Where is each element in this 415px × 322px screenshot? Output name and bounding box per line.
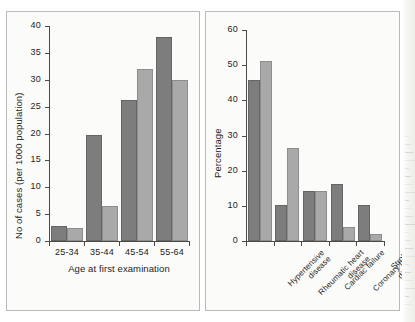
- page-edge-mark: [405, 256, 415, 257]
- page-edge-mark: [405, 272, 411, 273]
- page-edge-mark: [405, 240, 411, 241]
- y-axis-tick-label: 60: [214, 24, 238, 34]
- page-edge-mark: [405, 232, 409, 233]
- x-axis-title: Age at first examination: [49, 263, 189, 274]
- x-axis-tick: [189, 242, 190, 246]
- y-axis-tick: [45, 107, 49, 108]
- bar-men: [248, 80, 260, 241]
- y-axis-tick: [242, 100, 246, 101]
- y-axis-title: Percentage: [212, 128, 223, 178]
- y-axis-tick-label: 40: [17, 20, 41, 30]
- x-axis-tick: [84, 242, 85, 246]
- y-axis-tick: [242, 206, 246, 207]
- y-axis-tick: [45, 160, 49, 161]
- page-edge-mark: [405, 168, 409, 169]
- bar-women: [287, 148, 299, 241]
- x-axis-tick: [119, 242, 120, 246]
- bar-women: [172, 80, 188, 241]
- y-axis-tick: [45, 214, 49, 215]
- y-axis-tick-label: 10: [214, 200, 238, 210]
- x-axis-tick: [329, 242, 330, 246]
- bar-women: [260, 61, 272, 241]
- y-axis-line: [49, 26, 50, 242]
- page-edge-mark: [405, 192, 415, 193]
- page-edge-mark: [405, 264, 409, 265]
- y-axis-tick-label: 50: [214, 59, 238, 69]
- bar-men: [275, 205, 287, 241]
- y-axis-tick-label: 40: [214, 94, 238, 104]
- chart-panel-right: 0102030405060PercentageHypertensivedisea…: [205, 11, 400, 311]
- page-edge-mark: [405, 208, 411, 209]
- bar-men: [51, 226, 67, 241]
- page-edge-mark: [405, 184, 413, 185]
- y-axis-tick: [242, 65, 246, 66]
- y-axis-tick-label: 35: [17, 47, 41, 57]
- page-edge-mark: [405, 224, 415, 225]
- x-axis-tick: [246, 242, 247, 246]
- page-edge-mark: [405, 216, 413, 217]
- bar-women: [343, 227, 355, 241]
- y-axis-title: No of cases (per 1000 population): [13, 93, 24, 239]
- page-edge-mark: [405, 200, 409, 201]
- figure-root: 0510152025303540No of cases (per 1000 po…: [0, 0, 415, 322]
- y-axis-line: [246, 30, 247, 242]
- y-axis-tick: [45, 134, 49, 135]
- page-edge-mark: [405, 144, 411, 145]
- y-axis-tick-label: 0: [214, 235, 238, 245]
- page-edge-mark: [405, 304, 411, 305]
- bar-women: [67, 228, 83, 241]
- y-axis-tick: [45, 26, 49, 27]
- x-axis-tick: [384, 242, 385, 246]
- bar-women: [315, 191, 327, 241]
- page-edge-mark: [405, 176, 411, 177]
- y-axis-tick: [45, 187, 49, 188]
- plot-area-left: 0510152025303540No of cases (per 1000 po…: [49, 26, 189, 241]
- chart-panel-left: 0510152025303540No of cases (per 1000 po…: [6, 11, 200, 311]
- page-edge-mark: [405, 136, 409, 137]
- page-edge-mark: [405, 280, 413, 281]
- x-axis-tick: [49, 242, 50, 246]
- x-axis-tick: [301, 242, 302, 246]
- bar-men: [86, 135, 102, 241]
- page-edge-mark: [405, 288, 415, 289]
- bar-women: [137, 69, 153, 241]
- page-edge-mark: [405, 152, 413, 153]
- x-axis-line: [246, 241, 385, 242]
- plot-area-right: 0102030405060PercentageHypertensivedisea…: [246, 30, 384, 241]
- y-axis-tick: [242, 136, 246, 137]
- bar-women: [102, 206, 118, 241]
- x-axis-tick: [356, 242, 357, 246]
- y-axis-tick: [242, 171, 246, 172]
- page-edge-mark: [405, 296, 409, 297]
- x-axis-tick: [274, 242, 275, 246]
- page-edge-bleed: [402, 0, 415, 322]
- y-axis-tick-label: 30: [17, 74, 41, 84]
- bar-men: [358, 205, 370, 241]
- bar-women: [370, 234, 382, 241]
- y-axis-tick: [45, 80, 49, 81]
- bar-men: [331, 184, 343, 241]
- page-edge-mark: [405, 160, 415, 161]
- y-axis-tick: [242, 30, 246, 31]
- page-edge-mark: [405, 248, 413, 249]
- y-axis-tick: [45, 53, 49, 54]
- x-axis-tick: [154, 242, 155, 246]
- bar-men: [156, 37, 172, 241]
- bar-men: [121, 100, 137, 241]
- x-axis-tick-label: 55-64: [147, 247, 197, 257]
- bar-men: [303, 191, 315, 241]
